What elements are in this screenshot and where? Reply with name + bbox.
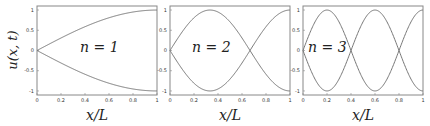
y-axis-label: u(x, t): [5, 30, 20, 69]
y-tick-label: 0.5: [159, 27, 167, 33]
y-tick-label: -1: [295, 88, 300, 94]
x-tick-label: 0: [301, 97, 304, 103]
y-tick-label: 1: [164, 7, 167, 13]
x-tick-label: 0.2: [190, 97, 198, 103]
x-tick-label: 0: [35, 97, 38, 103]
y-tick-label: 1: [297, 7, 300, 13]
x-tick-label: 0.4: [214, 97, 222, 103]
y-tick-label: -1: [29, 88, 34, 94]
subplot-3: 10.50-0.5-100.20.40.60.81n = 3x/L: [290, 6, 424, 123]
x-tick-label: 0.8: [262, 97, 270, 103]
mode-label: n = 2: [192, 39, 231, 55]
x-tick-label: 0.6: [371, 97, 379, 103]
subplot-2: 10.50-0.5-100.20.40.60.81n = 2x/L: [157, 6, 291, 123]
y-tick-label: 0: [297, 47, 300, 53]
x-tick-label: 0.4: [81, 97, 89, 103]
x-tick-label: 1: [288, 97, 291, 103]
x-tick-label: 0.4: [347, 97, 355, 103]
y-tick-label: -0.5: [157, 67, 167, 73]
x-tick-label: 0: [168, 97, 171, 103]
y-tick-label: 1: [31, 7, 34, 13]
mode-label: n = 1: [80, 39, 119, 55]
x-tick-label: 0.6: [105, 97, 113, 103]
subplot-1: 10.50-0.5-100.20.40.60.81n = 1x/L: [24, 6, 158, 123]
x-axis-label: x/L: [219, 107, 241, 123]
x-tick-label: 0.2: [323, 97, 331, 103]
y-tick-label: 0.5: [292, 27, 300, 33]
x-tick-label: 1: [155, 97, 158, 103]
x-tick-label: 0.2: [57, 97, 65, 103]
x-tick-label: 0.8: [129, 97, 137, 103]
figure: 10.50-0.5-100.20.40.60.81n = 1x/L10.50-0…: [0, 0, 430, 126]
x-tick-label: 1: [421, 97, 424, 103]
y-tick-label: 0: [31, 47, 34, 53]
y-tick-label: -1: [162, 88, 167, 94]
y-tick-label: 0.5: [26, 27, 34, 33]
y-tick-label: 0: [164, 47, 167, 53]
x-axis-label: x/L: [352, 107, 374, 123]
negative-mode-curve: [37, 51, 157, 91]
y-tick-label: -0.5: [24, 67, 34, 73]
mode-label: n = 3: [308, 39, 347, 55]
y-tick-label: -0.5: [290, 67, 300, 73]
x-tick-label: 0.8: [395, 97, 403, 103]
x-axis-label: x/L: [86, 107, 108, 123]
x-tick-label: 0.6: [238, 97, 246, 103]
